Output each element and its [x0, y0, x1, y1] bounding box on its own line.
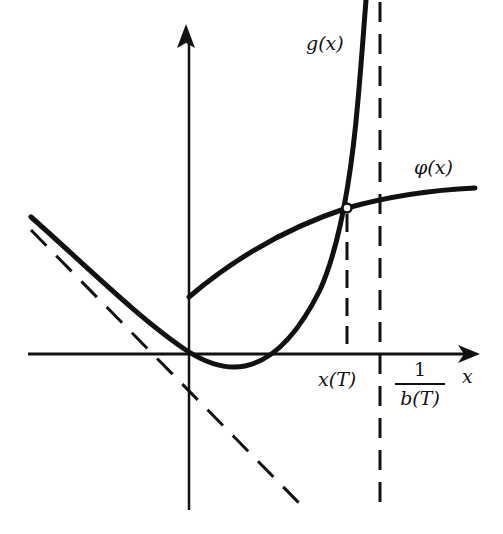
- y-axis-arrow-icon: [177, 24, 186, 48]
- label-asymptote-fraction: 1 b(T): [393, 360, 447, 408]
- curve-g: [31, 0, 366, 367]
- label-g: g(x): [306, 34, 344, 53]
- label-phi: φ(x): [414, 158, 453, 177]
- intersection-point: [343, 204, 352, 213]
- y-axis-arrow-icon-right: [186, 24, 195, 48]
- slant-asymptote: [31, 230, 300, 504]
- fraction-denominator: b(T): [393, 385, 447, 408]
- fraction-numerator: 1: [393, 360, 447, 383]
- label-x-axis: x: [462, 367, 473, 386]
- curve-phi: [189, 188, 475, 297]
- function-diagram: [0, 0, 503, 534]
- label-xT: x(T): [318, 370, 356, 389]
